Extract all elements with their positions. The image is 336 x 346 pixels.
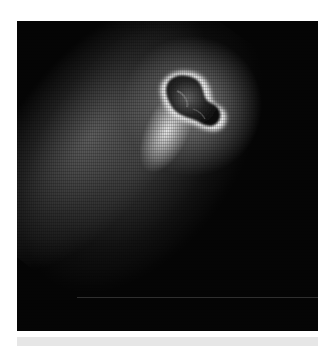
sensor-scanline	[77, 297, 318, 298]
bottom-band	[17, 337, 318, 346]
grain-texture	[17, 21, 318, 331]
comet-image	[17, 21, 318, 331]
